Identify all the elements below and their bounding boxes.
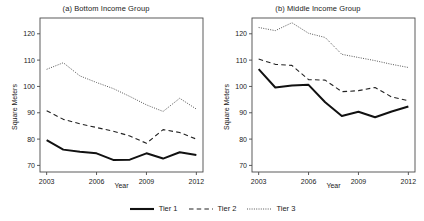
panel-a-plot: 7080901001101202003200620092012 xyxy=(0,0,212,196)
svg-text:100: 100 xyxy=(235,83,247,90)
legend-label-tier-1: Tier 1 xyxy=(159,204,178,213)
legend-item-tier-2: Tier 2 xyxy=(188,204,237,213)
series-line-tier-3 xyxy=(259,23,409,68)
svg-text:80: 80 xyxy=(239,136,247,143)
series-line-tier-2 xyxy=(47,111,197,144)
legend-swatch-dotted xyxy=(246,205,272,213)
svg-text:90: 90 xyxy=(239,109,247,116)
panel-b: (b) Middle Income Group Square Meters Ye… xyxy=(212,0,424,196)
svg-text:2003: 2003 xyxy=(251,178,267,185)
svg-text:70: 70 xyxy=(239,162,247,169)
svg-text:120: 120 xyxy=(23,30,35,37)
legend-label-tier-2: Tier 2 xyxy=(218,204,237,213)
legend-item-tier-3: Tier 3 xyxy=(246,204,295,213)
svg-text:2006: 2006 xyxy=(89,178,105,185)
svg-text:2009: 2009 xyxy=(139,178,155,185)
svg-text:2012: 2012 xyxy=(189,178,205,185)
svg-text:80: 80 xyxy=(27,136,35,143)
series-line-tier-3 xyxy=(47,63,197,112)
panel-b-plot: 7080901001101202003200620092012 xyxy=(212,0,424,196)
svg-text:2012: 2012 xyxy=(401,178,417,185)
legend: Tier 1 Tier 2 Tier 3 xyxy=(0,196,424,221)
series-line-tier-2 xyxy=(259,59,409,101)
svg-text:90: 90 xyxy=(27,109,35,116)
svg-text:2006: 2006 xyxy=(301,178,317,185)
svg-text:100: 100 xyxy=(23,83,35,90)
svg-text:2009: 2009 xyxy=(351,178,367,185)
panel-row: (a) Bottom Income Group Square Meters Ye… xyxy=(0,0,424,196)
legend-item-tier-1: Tier 1 xyxy=(129,204,178,213)
figure: (a) Bottom Income Group Square Meters Ye… xyxy=(0,0,424,221)
svg-text:110: 110 xyxy=(236,57,247,64)
panel-a: (a) Bottom Income Group Square Meters Ye… xyxy=(0,0,212,196)
series-line-tier-1 xyxy=(47,140,197,160)
svg-text:2003: 2003 xyxy=(39,178,55,185)
svg-text:70: 70 xyxy=(27,162,35,169)
svg-text:120: 120 xyxy=(235,30,247,37)
legend-swatch-dashed xyxy=(188,205,214,213)
series-line-tier-1 xyxy=(259,69,409,117)
svg-text:110: 110 xyxy=(24,57,35,64)
legend-label-tier-3: Tier 3 xyxy=(276,204,295,213)
legend-swatch-solid xyxy=(129,205,155,213)
